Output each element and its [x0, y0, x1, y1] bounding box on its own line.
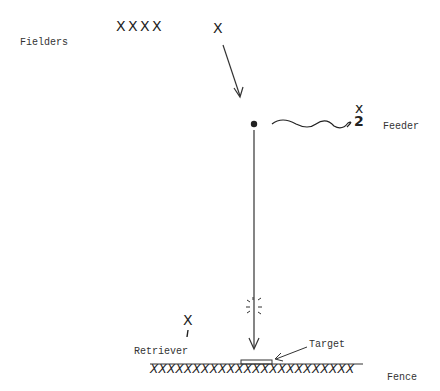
feeder-wavy-line [272, 120, 351, 128]
target-box [241, 360, 272, 364]
fielder-throw-arrow [223, 45, 243, 97]
ball-path-arrow [249, 130, 259, 349]
retriever-number-mark [187, 330, 188, 337]
target-pointer-arrow [275, 347, 307, 361]
ball-icon [251, 121, 257, 127]
field-diagram [0, 0, 440, 391]
